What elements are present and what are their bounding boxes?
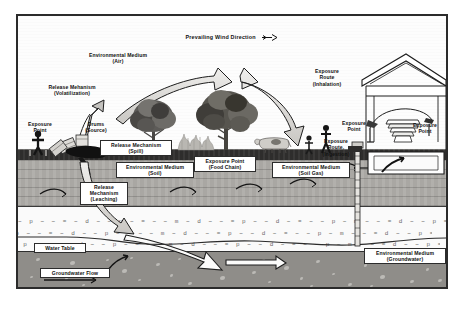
label-drums-source: Drums (Source) <box>76 121 116 134</box>
label-release-mechanism-leaching: Release Mechanism (Leaching) <box>80 182 128 205</box>
label-release-mechanism-volatilization: Release Mehanism (Volatilization) <box>26 84 118 97</box>
page-title-text: Prevailing Wind Direction <box>186 34 256 40</box>
bush-icon <box>178 134 214 150</box>
label-exposure-route-inhalation: Exposure Route (Inhalation) <box>304 68 350 87</box>
label-environmental-medium-soil-gas: Environmental Medium (Soil Gas) <box>272 162 350 178</box>
cow-icon <box>255 138 291 153</box>
wind-arrow-icon <box>262 34 278 42</box>
label-exposure-point-person: Exposure Point <box>334 120 374 133</box>
groundwater-flow-arrow-2 <box>226 256 286 269</box>
house-cutaway-icon <box>348 54 446 174</box>
groundwater-basement-arrow <box>108 255 128 270</box>
child-figure-icon <box>305 135 313 154</box>
diagram-frame: ~ p ~ ~ = ~ d ~ ~ p ~ = ~ ~ m ~ d ~ ~ = … <box>16 14 448 289</box>
label-environmental-medium-groundwater: Environmental Medium (Groundwater) <box>364 248 446 264</box>
label-exposure-route-ingestion: Exposure Route, (Ingestion) <box>314 138 358 157</box>
label-release-mechanism-spill: Release Mechanism (Spill) <box>100 140 172 156</box>
label-exposure-point-house: Exposure Point <box>404 122 446 135</box>
page-title: Prevailing Wind Direction <box>18 34 446 42</box>
monitoring-well-icon <box>352 142 363 246</box>
label-environmental-medium-air: Environmental Medium (Air) <box>70 52 166 65</box>
label-environmental-medium-soil: Environmental Medium (Soil) <box>116 162 194 178</box>
conceptual-site-model-figure: ~ p ~ ~ = ~ d ~ ~ p ~ = ~ ~ m ~ d ~ ~ = … <box>0 0 464 309</box>
label-exposure-point-left: Exposure Point <box>18 121 62 134</box>
label-water-table: Water Table <box>34 243 86 253</box>
label-exposure-point-food-chain: Exposure Point (Food Chain) <box>194 156 256 172</box>
person-figure-icon <box>30 131 46 156</box>
label-groundwater-flow: Groundwater Flow <box>40 268 110 278</box>
